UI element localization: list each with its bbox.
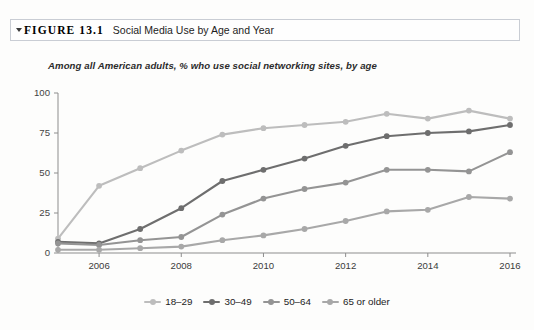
series-line — [58, 125, 510, 243]
legend-item-18-29[interactable]: 18–29 — [144, 296, 192, 307]
data-point — [137, 245, 143, 251]
x-axis-tick-label: 2012 — [335, 260, 356, 271]
plot-area: 0255075100200620082010201220142016 — [0, 46, 534, 286]
data-point — [55, 241, 61, 247]
series-30-49 — [55, 122, 513, 246]
legend-label: 50–64 — [284, 296, 311, 307]
data-point — [466, 194, 472, 200]
data-point — [178, 148, 184, 154]
legend-label: 18–29 — [165, 296, 192, 307]
series-line — [58, 152, 510, 245]
data-point — [96, 183, 102, 189]
figure-number-label: FIGURE 13.1 — [24, 24, 104, 36]
series-65-or-older — [55, 194, 513, 253]
data-point — [96, 247, 102, 253]
data-point — [425, 116, 431, 122]
data-point — [261, 167, 267, 173]
data-point — [466, 169, 472, 175]
data-point — [384, 133, 390, 139]
data-point — [384, 209, 390, 215]
data-point — [137, 237, 143, 243]
triangle-right-icon — [16, 28, 22, 32]
data-point — [55, 247, 61, 253]
legend-item-30-49[interactable]: 30–49 — [203, 296, 251, 307]
series-line — [58, 111, 510, 239]
data-point — [178, 234, 184, 240]
figure-page: FIGURE 13.1 Social Media Use by Age and … — [0, 0, 534, 330]
data-point — [137, 165, 143, 171]
figure-title: Social Media Use by Age and Year — [113, 24, 274, 36]
x-axis-tick-label: 2014 — [417, 260, 439, 271]
data-point — [219, 132, 225, 138]
x-axis-tick-label: 2008 — [171, 260, 192, 271]
data-point — [343, 218, 349, 224]
x-axis-tick-label: 2016 — [499, 260, 520, 271]
x-axis-tick-label: 2006 — [88, 260, 109, 271]
data-point — [425, 130, 431, 136]
data-point — [178, 205, 184, 211]
legend-item-65-or-older[interactable]: 65 or older — [322, 296, 390, 307]
data-point — [507, 149, 513, 155]
data-point — [261, 233, 267, 239]
data-point — [507, 116, 513, 122]
chart-container: Among all American adults, % who use soc… — [0, 46, 534, 330]
data-point — [507, 196, 513, 202]
chart-legend: 18–29 30–49 50–64 — [0, 296, 534, 307]
data-point — [507, 122, 513, 128]
series-18-29 — [55, 108, 513, 242]
legend-item-50-64[interactable]: 50–64 — [263, 296, 311, 307]
data-point — [466, 108, 472, 114]
data-point — [425, 207, 431, 213]
data-point — [261, 196, 267, 202]
data-point — [302, 156, 308, 162]
data-point — [384, 167, 390, 173]
data-point — [302, 226, 308, 232]
data-point — [466, 129, 472, 135]
data-point — [343, 119, 349, 125]
y-axis-tick-label: 100 — [34, 87, 50, 98]
legend-swatch-icon — [263, 297, 280, 306]
line-chart-svg: 0255075100200620082010201220142016 — [0, 46, 534, 286]
legend-label: 30–49 — [224, 296, 251, 307]
data-point — [384, 111, 390, 117]
data-point — [343, 180, 349, 186]
data-point — [219, 212, 225, 218]
data-point — [137, 226, 143, 232]
data-point — [343, 143, 349, 149]
legend-swatch-icon — [144, 297, 161, 306]
data-point — [425, 167, 431, 173]
data-point — [219, 237, 225, 243]
data-point — [178, 244, 184, 250]
figure-caption-bar: FIGURE 13.1 Social Media Use by Age and … — [10, 19, 520, 41]
data-point — [302, 186, 308, 192]
legend-label: 65 or older — [343, 296, 390, 307]
y-axis-tick-label: 50 — [39, 167, 50, 178]
data-point — [219, 178, 225, 184]
legend-swatch-icon — [322, 297, 339, 306]
x-axis-tick-label: 2010 — [253, 260, 274, 271]
y-axis-tick-label: 25 — [39, 207, 50, 218]
data-point — [261, 125, 267, 131]
y-axis-tick-label: 0 — [45, 247, 50, 258]
data-point — [302, 122, 308, 128]
y-axis-tick-label: 75 — [39, 127, 50, 138]
legend-swatch-icon — [203, 297, 220, 306]
